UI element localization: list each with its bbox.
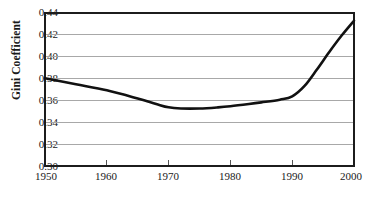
plot-area [0,0,370,197]
plot-frame [45,13,354,167]
gridlines [45,34,354,144]
gini-coefficient-line-chart: Gini Coefficient 0.44 0.42 0.40 0.38 0.3… [0,0,370,197]
